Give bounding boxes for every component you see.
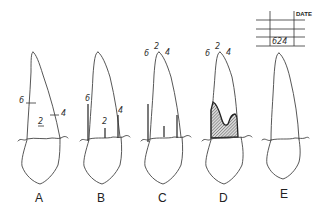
- depth-label-mesial: 6: [19, 96, 24, 105]
- periodontal-chart: DATE 624: [256, 11, 312, 46]
- depth-label-distal: 4: [226, 48, 231, 57]
- crown-outline: [267, 139, 300, 179]
- depth-label-mesial: 6: [85, 94, 90, 103]
- crown-outline: [84, 137, 122, 184]
- depth-label-center: 2: [102, 117, 107, 126]
- crown-outline: [22, 138, 60, 184]
- tooth-panel-b: 6 2 4 B: [80, 52, 130, 205]
- tooth-panel-e: E: [262, 53, 309, 201]
- panel-label-d: D: [219, 191, 228, 205]
- depth-label-mesial: 6: [205, 49, 210, 58]
- depth-label-distal: 4: [61, 109, 66, 118]
- depth-label-distal: 4: [165, 48, 170, 57]
- depth-label-distal: 4: [118, 106, 123, 115]
- tooth-panel-c: 6 2 4 C: [141, 42, 191, 205]
- cej-line: [18, 137, 68, 142]
- panel-label-c: C: [158, 191, 167, 205]
- depth-label-center: 2: [38, 117, 43, 126]
- panel-label-e: E: [280, 187, 288, 201]
- cej-line: [262, 137, 309, 140]
- tooth-panel-d: 6 2 4 D: [202, 42, 252, 205]
- crown-outline: [206, 137, 243, 184]
- tooth-panel-a: 6 4 2 A: [18, 52, 68, 205]
- chart-entry: 624: [272, 37, 287, 46]
- panel-label-b: B: [97, 191, 105, 205]
- periodontal-probing-diagram: 6 4 2 A 6 2 4 B 6 2 4 C 6 2 4: [0, 0, 325, 213]
- depth-label-mesial: 6: [144, 49, 149, 58]
- pocket-shading: [211, 102, 238, 138]
- crown-outline: [145, 137, 183, 184]
- chart-date-header: DATE: [296, 11, 312, 17]
- depth-label-center: 2: [154, 42, 159, 51]
- panel-label-a: A: [35, 191, 43, 205]
- tooth-outline: [271, 53, 299, 140]
- depth-label-center: 2: [215, 42, 220, 51]
